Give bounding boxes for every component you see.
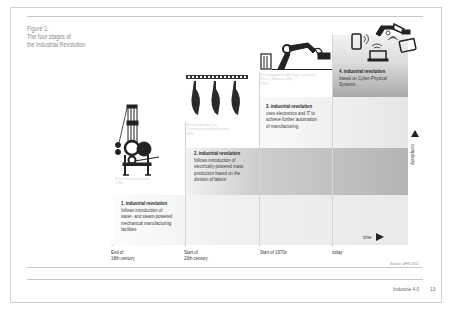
stage-4-line-2: Systems	[339, 81, 387, 88]
stage-1-number: 1.	[121, 200, 125, 206]
stage-2-number: 2.	[194, 150, 198, 156]
period-3-line-1: Start of 1970s	[260, 249, 287, 255]
figure-title-line2: the Industrial Revolution	[27, 41, 85, 49]
footer-page-number: 13	[430, 286, 435, 292]
top-rule	[27, 16, 423, 17]
stage-4-description: 4. industrial revolution based on Cyber-…	[339, 68, 387, 88]
stage-3-title: industrial revolution	[271, 103, 312, 109]
stage-2-line-4: division of labour	[194, 176, 243, 183]
period-label-1: End of 18th century	[111, 249, 135, 261]
figure-bottom-rule	[27, 267, 423, 268]
source-note: Source: DFKI 2011	[390, 262, 419, 266]
stage-2-line-2: electrically-powered mass	[194, 163, 243, 170]
footer-publication: Industrie 4.0	[393, 286, 419, 292]
divider-stage-4	[332, 35, 333, 245]
period-label-4: today	[332, 249, 343, 255]
caption-stage-2-line3: 1870	[186, 132, 230, 136]
stage-1-description: 1. industrial revolution follows introdu…	[121, 200, 172, 233]
figure-title: Figure 1: The four stages of the Industr…	[27, 25, 85, 49]
tick-1: +	[111, 242, 113, 247]
stage-2-line-3: production based on the	[194, 170, 243, 177]
stage-1-line-3: mechanical manufacturing	[121, 220, 172, 227]
stage-3-line-3: of manufacturing	[266, 123, 317, 130]
caption-stage-3: First programmable logic controller (PLC…	[260, 73, 315, 86]
figure-title-line1: The four stages of	[27, 33, 85, 41]
footer-rule	[27, 279, 423, 280]
stage-1-line-1: follows introduction of	[121, 207, 172, 214]
y-axis-label: complexity	[410, 144, 415, 165]
tick-3: +	[258, 242, 260, 247]
caption-stage-3-line3: 1969	[260, 82, 315, 86]
stage-4-title: industrial revolution	[344, 68, 385, 74]
figure-label: Figure 1:	[27, 25, 85, 33]
period-label-3: Start of 1970s	[260, 249, 287, 255]
stage-3-line-2: achieve further automation	[266, 116, 317, 123]
time-arrow-icon	[376, 233, 384, 241]
stage-3-description: 3. industrial revolution uses electronic…	[266, 103, 317, 129]
stage-1-heading: 1. industrial revolution	[121, 200, 172, 207]
stage-3-number: 3.	[266, 103, 270, 109]
tick-4: +	[331, 242, 333, 247]
tick-2: +	[184, 242, 186, 247]
complexity-arrow-icon	[411, 130, 419, 137]
stage-3-line-1: uses electronics and IT to	[266, 110, 317, 117]
stage-2-line-1: follows introduction of	[194, 157, 243, 164]
caption-stage-1-line2: 1784	[115, 181, 151, 185]
period-label-2: Start of 20th century	[184, 249, 208, 261]
cyber-physical-systems-icon	[350, 24, 420, 62]
divider-stage-3	[259, 72, 260, 245]
stage-1-line-4: facilities	[121, 226, 172, 233]
divider-stage-2	[185, 122, 186, 245]
stage-3-heading: 3. industrial revolution	[266, 103, 317, 110]
stage-1-line-2: water- and steam-powered	[121, 213, 172, 220]
stage-2-heading: 2. industrial revolution	[194, 150, 243, 157]
stage-4-line-1: based on Cyber-Physical	[339, 75, 387, 82]
stage-4-number: 4.	[339, 68, 343, 74]
caption-stage-1: First mechanical loom, 1784	[115, 177, 151, 186]
period-1-line-2: 18th century	[111, 255, 135, 261]
stage-1-title: industrial revolution	[126, 200, 167, 206]
stage-4-heading: 4. industrial revolution	[339, 68, 387, 75]
caption-stage-2: First production line, Cincinnati slaugh…	[186, 123, 230, 136]
period-4-line-1: today	[332, 249, 343, 255]
mechanical-loom-icon	[115, 103, 165, 175]
period-2-line-2: 20th century	[184, 255, 208, 261]
x-axis-label: time	[363, 235, 372, 240]
stage-2-title: industrial revolution	[199, 150, 240, 156]
stage-2-description: 2. industrial revolution follows introdu…	[194, 150, 243, 183]
robot-arm-icon	[260, 40, 332, 70]
assembly-line-icon	[186, 75, 248, 120]
